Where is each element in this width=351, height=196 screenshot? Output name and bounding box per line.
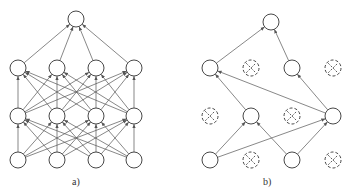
dropped-neuron <box>243 152 259 168</box>
connection-edge <box>256 122 286 154</box>
neuron <box>325 108 341 124</box>
neuron <box>284 152 300 168</box>
connection-edge <box>82 24 128 63</box>
connection-edge <box>297 122 327 154</box>
dropout-diagram <box>0 0 351 196</box>
dropped-neuron <box>243 60 259 76</box>
connection-edge <box>216 27 264 63</box>
neuron <box>202 152 218 168</box>
connection-edge <box>24 24 70 63</box>
neuron <box>10 108 26 124</box>
neuron <box>88 108 104 124</box>
connection-edge <box>297 74 328 110</box>
neuron <box>10 60 26 76</box>
connection-edge <box>60 26 73 60</box>
dropped-neuron <box>325 152 341 168</box>
panel-a-label: a) <box>72 176 80 187</box>
connection-edge <box>217 71 325 113</box>
connection-edge <box>215 122 245 154</box>
connection-edge <box>215 74 246 110</box>
neuron <box>49 152 65 168</box>
neuron <box>126 108 142 124</box>
neuron <box>126 152 142 168</box>
neuron <box>68 11 84 27</box>
neuron <box>126 60 142 76</box>
dropped-neuron <box>284 108 300 124</box>
neuron <box>243 108 259 124</box>
neuron <box>10 152 26 168</box>
connection-edge <box>274 29 288 60</box>
neuron <box>88 60 104 76</box>
neuron <box>88 152 104 168</box>
neuron <box>49 108 65 124</box>
dropped-neuron <box>202 108 218 124</box>
neuron <box>263 14 279 30</box>
neuron <box>49 60 65 76</box>
dropped-neuron <box>325 60 341 76</box>
neuron <box>202 60 218 76</box>
panel-b-label: b) <box>263 176 271 187</box>
neuron <box>284 60 300 76</box>
